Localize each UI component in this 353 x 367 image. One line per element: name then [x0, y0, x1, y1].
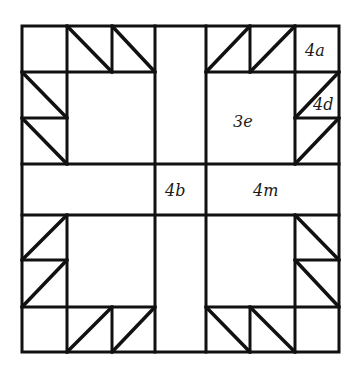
- quilt-block-diagram: 4a 4d 3e 4b 4m: [0, 0, 353, 367]
- label-4a: 4a: [304, 41, 325, 60]
- label-4d: 4d: [312, 95, 333, 114]
- label-3e: 3e: [233, 112, 253, 131]
- label-4b: 4b: [164, 181, 185, 200]
- label-4m: 4m: [252, 181, 278, 200]
